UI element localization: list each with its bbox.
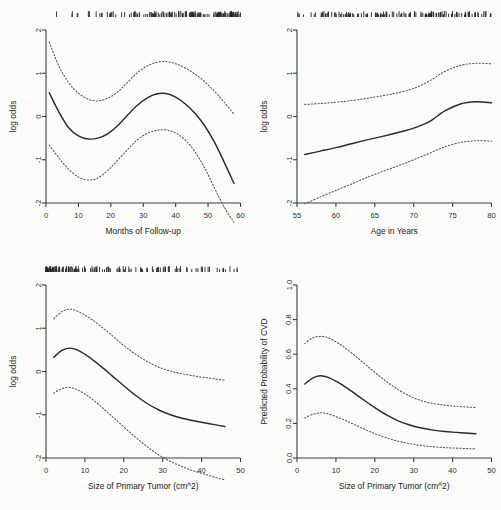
y-tick-label: -1 <box>284 156 293 163</box>
rug-plot <box>56 11 240 17</box>
y-axis: 0.00.20.40.60.81.0Predicted Probability … <box>259 280 297 464</box>
x-axis-title: Size of Primary Tumor (cm^2) <box>339 481 450 491</box>
y-axis: -2-1012log odds <box>8 283 46 462</box>
y-tick-label: 1 <box>34 71 43 75</box>
x-tick-label: 0 <box>44 466 48 475</box>
series-upper-ci <box>304 63 491 104</box>
y-tick-label: 0.0 <box>284 453 293 464</box>
panel-follow-up: -2-1012log odds0102030405060Months of Fo… <box>0 0 251 255</box>
y-tick-label: 2 <box>34 28 43 32</box>
x-axis: 01020304050Size of Primary Tumor (cm^2) <box>294 458 495 491</box>
y-tick-label: 0 <box>34 369 43 373</box>
x-tick-label: 60 <box>236 211 244 220</box>
x-axis: 556065707580Age in Years <box>292 203 495 236</box>
series-fit <box>54 348 225 426</box>
series-fit <box>304 102 491 155</box>
x-tick-label: 30 <box>409 466 417 475</box>
y-tick-label: 2 <box>284 28 293 32</box>
x-tick-label: 50 <box>236 466 244 475</box>
y-tick-label: 0 <box>284 114 293 118</box>
y-axis-title: log odds <box>259 101 269 133</box>
y-tick-label: 1 <box>34 326 43 330</box>
series-upper-ci <box>304 336 475 407</box>
panel-top-left: -2-1012log odds0102030405060Months of Fo… <box>0 0 251 255</box>
x-tick-label: 40 <box>171 211 179 220</box>
x-axis: 01020304050Size of Primary Tumor (cm^2) <box>44 458 245 491</box>
y-tick-label: 1 <box>284 71 293 75</box>
y-axis-title: log odds <box>8 356 18 388</box>
y-tick-label: 2 <box>34 283 43 287</box>
series-upper-ci <box>49 42 234 114</box>
y-axis-title: log odds <box>8 101 18 133</box>
x-axis-title: Months of Follow-up <box>106 226 182 236</box>
y-axis: -2-1012log odds <box>259 28 297 207</box>
y-axis-title: Predicted Probability of CVD <box>259 318 269 424</box>
x-tick-label: 10 <box>74 211 82 220</box>
x-axis-title: Age in Years <box>370 226 417 236</box>
y-tick-label: -2 <box>34 455 43 462</box>
panel-bottom-right: 0.00.20.40.60.81.0Predicted Probability … <box>251 255 501 510</box>
series-lower-ci <box>304 141 491 204</box>
y-axis: -2-1012log odds <box>8 28 46 207</box>
x-tick-label: 10 <box>81 466 89 475</box>
panel-tumor-probability: 0.00.20.40.60.81.0Predicted Probability … <box>251 255 501 510</box>
y-tick-label: -2 <box>284 200 293 207</box>
x-tick-label: 30 <box>158 466 166 475</box>
series-fit <box>49 93 234 184</box>
y-tick-label: 0.4 <box>284 384 293 395</box>
y-tick-label: -2 <box>34 200 43 207</box>
y-tick-label: 0.6 <box>284 349 293 360</box>
panel-bottom-left: -2-1012log odds01020304050Size of Primar… <box>0 255 251 510</box>
x-axis-title: Size of Primary Tumor (cm^2) <box>88 481 199 491</box>
x-tick-label: 50 <box>204 211 212 220</box>
x-tick-label: 30 <box>139 211 147 220</box>
x-tick-label: 50 <box>487 466 495 475</box>
x-tick-label: 10 <box>331 466 339 475</box>
y-tick-label: 0.8 <box>284 314 293 325</box>
y-tick-label: -1 <box>34 411 43 418</box>
y-tick-label: -1 <box>34 156 43 163</box>
panel-tumor-logodds: -2-1012log odds01020304050Size of Primar… <box>0 255 251 510</box>
x-tick-label: 40 <box>448 466 456 475</box>
x-axis: 0102030405060Months of Follow-up <box>44 203 245 236</box>
x-tick-label: 0 <box>294 466 298 475</box>
x-tick-label: 20 <box>107 211 115 220</box>
x-tick-label: 65 <box>370 211 378 220</box>
series-lower-ci <box>49 130 234 223</box>
figure-canvas: -2-1012log odds0102030405060Months of Fo… <box>0 0 501 510</box>
rug-plot <box>297 11 490 17</box>
y-tick-label: 1.0 <box>284 280 293 291</box>
x-tick-label: 20 <box>370 466 378 475</box>
x-tick-label: 0 <box>44 211 48 220</box>
x-tick-label: 70 <box>409 211 417 220</box>
y-tick-label: 0.2 <box>284 418 293 429</box>
x-tick-label: 20 <box>120 466 128 475</box>
y-tick-label: 0 <box>34 114 43 118</box>
panel-age: -2-1012log odds556065707580Age in Years <box>251 0 501 255</box>
x-tick-label: 55 <box>292 211 300 220</box>
series-upper-ci <box>54 309 225 380</box>
x-tick-label: 60 <box>331 211 339 220</box>
x-tick-label: 80 <box>487 211 495 220</box>
series-lower-ci <box>304 413 475 449</box>
x-tick-label: 75 <box>448 211 456 220</box>
rug-plot <box>46 266 237 272</box>
panel-top-right: -2-1012log odds556065707580Age in Years <box>251 0 501 255</box>
